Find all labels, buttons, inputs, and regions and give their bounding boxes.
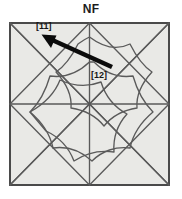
direction-label-11: [11] — [36, 21, 52, 31]
pattern-lines — [10, 23, 169, 185]
figure-root: NF — [0, 0, 182, 199]
pattern-diagram-svg — [0, 0, 182, 199]
direction-label-12: [12] — [91, 70, 107, 80]
